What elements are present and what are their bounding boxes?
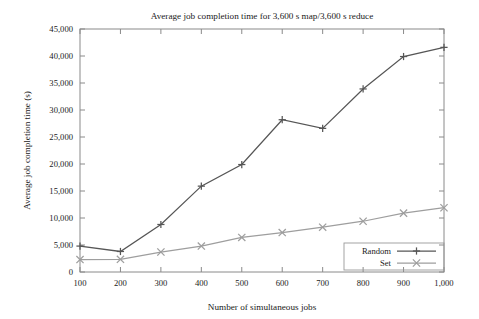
legend-label-set: Set [380, 258, 392, 268]
x-tick-label: 200 [114, 278, 127, 288]
y-tick-label: 0 [69, 267, 73, 277]
y-tick-label: 20,000 [49, 159, 73, 169]
y-tick-label: 40,000 [49, 51, 73, 61]
y-tick-label: 25,000 [49, 132, 73, 142]
series-line-random [80, 47, 444, 251]
x-axis-title: Number of simultaneous jobs [208, 302, 317, 312]
y-tick-label: 30,000 [49, 105, 73, 115]
x-tick-label: 800 [357, 278, 370, 288]
legend-label-random: Random [362, 246, 391, 256]
x-tick-label: 600 [276, 278, 289, 288]
legend-box [344, 243, 444, 270]
x-tick-label: 300 [154, 278, 167, 288]
x-tick-label: 700 [316, 278, 329, 288]
x-tick-label: 900 [397, 278, 410, 288]
line-chart: Average job completion time for 3,600 s … [0, 0, 479, 319]
y-axis-title: Average job completion time (s) [22, 91, 32, 210]
y-tick-label: 10,000 [49, 213, 73, 223]
x-tick-label: 400 [195, 278, 208, 288]
y-tick-label: 15,000 [49, 186, 73, 196]
chart-title: Average job completion time for 3,600 s … [151, 11, 374, 21]
x-tick-label: 1,000 [434, 278, 453, 288]
chart-figure: Average job completion time for 3,600 s … [0, 0, 479, 319]
y-tick-label: 35,000 [49, 78, 73, 88]
y-tick-label: 45,000 [49, 24, 73, 34]
y-tick-label: 5,000 [54, 240, 73, 250]
x-tick-label: 500 [235, 278, 248, 288]
x-tick-label: 100 [74, 278, 87, 288]
